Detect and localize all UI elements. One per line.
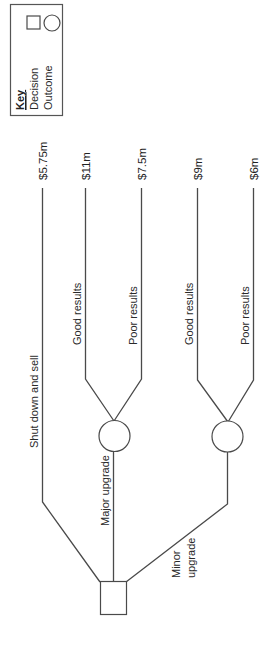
value-minor-poor: $6m: [248, 158, 260, 180]
legend-key: Key Decision Outcome: [11, 5, 63, 116]
legend-outcome-circle-icon: [44, 15, 60, 31]
legend-outcome-label: Outcome: [42, 65, 54, 110]
decision-node-square-icon: [101, 582, 127, 615]
terminal-values: $5.75m $11m $7.5m $9m $6m: [37, 142, 260, 180]
branch-minor-good-line: [198, 188, 229, 422]
legend-decision-square-icon: [27, 16, 40, 29]
label-minor-good: Good results: [183, 282, 195, 345]
label-major-upgrade: Major upgrade: [99, 455, 111, 526]
value-shut-down: $5.75m: [37, 142, 49, 180]
label-minor-line1: Minor: [170, 550, 182, 578]
label-major-good: Good results: [71, 282, 83, 345]
legend-decision-label: Decision: [28, 68, 40, 110]
value-minor-good: $9m: [192, 158, 204, 180]
label-minor-line2: upgrade: [185, 538, 197, 578]
outcome-node-minor-icon: [212, 421, 243, 452]
decision-tree-diagram: Key Decision Outcome $5.75m $11m $7.5m $…: [0, 0, 276, 656]
value-major-good: $11m: [80, 152, 92, 180]
outcome-node-major-icon: [99, 421, 130, 452]
legend-title: Key: [14, 89, 26, 110]
label-major-poor: Poor results: [127, 286, 139, 345]
branch-major-good-line: [86, 188, 115, 421]
label-shut-down: Shut down and sell: [28, 355, 40, 448]
value-major-poor: $7.5m: [136, 148, 148, 180]
branch-shut-down-line: [43, 188, 101, 582]
label-minor-poor: Poor results: [239, 286, 251, 345]
